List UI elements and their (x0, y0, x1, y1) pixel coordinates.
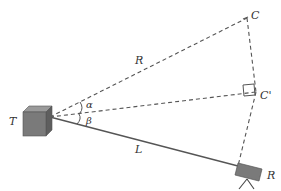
label-beta: β (85, 115, 92, 126)
line-c-to-c-prime (247, 18, 256, 92)
label-c-prime: C' (260, 89, 271, 102)
line-c-prime-to-r (238, 92, 256, 166)
angle-alpha-arc (80, 102, 82, 113)
label-dist-r: R (134, 54, 143, 67)
label-r-receiver: R (266, 169, 275, 182)
right-angle-marker (243, 84, 255, 96)
label-dist-l: L (134, 143, 142, 156)
receiver-camera-icon (235, 163, 262, 189)
label-c: C (251, 9, 260, 22)
line-t-to-c (50, 18, 247, 117)
label-t: T (9, 115, 18, 128)
line-t-to-r (50, 117, 238, 166)
angle-beta-arc (77, 114, 80, 124)
label-alpha: α (86, 99, 93, 110)
triangulation-diagram: T C C' R R L α β (0, 0, 281, 191)
transmitter-cube-icon (23, 106, 52, 136)
